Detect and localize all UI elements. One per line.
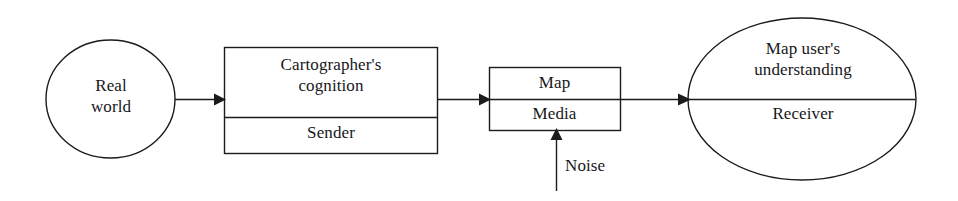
node-map-media-upper-label: Map — [489, 72, 620, 93]
node-map-media-lower-label: Media — [489, 103, 620, 124]
edge-noise-label: Noise — [565, 155, 635, 176]
node-real-world-label: Real world — [46, 75, 176, 117]
diagram-canvas: Real world Cartographer's cognition Send… — [0, 0, 958, 201]
node-cartographer-lower-label: Sender — [224, 122, 438, 143]
node-cartographer-upper-label: Cartographer's cognition — [224, 54, 438, 96]
node-map-user-upper-label: Map user's understanding — [697, 38, 909, 80]
node-map-user-lower-label: Receiver — [697, 103, 909, 124]
